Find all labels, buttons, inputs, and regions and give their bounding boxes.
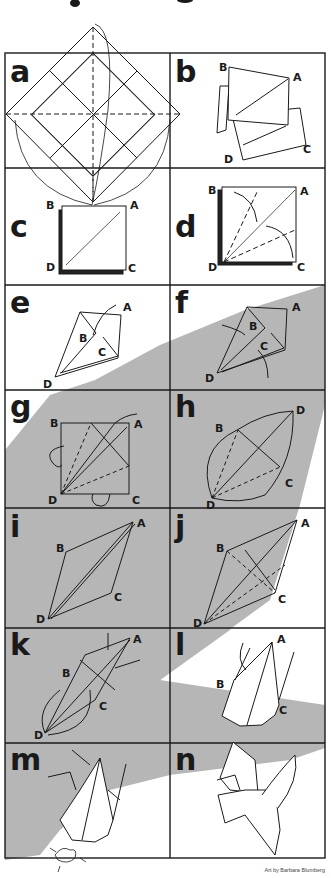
- panel-c-drawing: [59, 170, 126, 274]
- panel-label-e: e: [10, 288, 30, 318]
- vertex-label: B: [56, 543, 64, 554]
- panel-label-c: c: [10, 212, 28, 242]
- vertex-label: C: [279, 705, 287, 716]
- vertex-label: A: [293, 72, 302, 83]
- vertex-label: A: [134, 419, 143, 430]
- vertex-label: D: [34, 730, 43, 741]
- vertex-label: C: [99, 701, 107, 712]
- vertex-label: C: [260, 341, 268, 352]
- panel-label-m: m: [10, 745, 41, 775]
- panel-label-i: i: [10, 512, 20, 542]
- vertex-label: B: [62, 668, 70, 679]
- vertex-label: D: [193, 618, 202, 629]
- vertex-label: D: [46, 262, 55, 273]
- vertex-label: C: [132, 495, 140, 506]
- panel-label-g: g: [10, 392, 31, 422]
- vertex-label: D: [205, 373, 214, 384]
- vertex-label: B: [50, 418, 58, 429]
- panel-d-drawing: [218, 187, 296, 265]
- feathers-puff: [50, 848, 86, 872]
- vertex-label: B: [79, 333, 87, 344]
- vertex-label: B: [219, 62, 227, 73]
- panel-label-b: b: [175, 57, 196, 87]
- vertex-label: B: [216, 679, 224, 690]
- vertex-label: D: [296, 405, 305, 416]
- vertex-label: A: [137, 518, 146, 529]
- vertex-label: C: [114, 592, 122, 603]
- art-credit: Art by Barbara Blumberg: [264, 867, 325, 873]
- vertex-label: A: [301, 518, 310, 529]
- vertex-label: C: [297, 262, 305, 273]
- vertex-label: B: [208, 185, 216, 196]
- origami-crane-diagram: a b c d e f g h i j k l m n B A C D B A …: [0, 0, 331, 878]
- panel-label-a: a: [10, 57, 30, 87]
- panel-label-j: j: [175, 512, 185, 542]
- vertex-label: B: [46, 200, 54, 211]
- vertex-label: B: [215, 423, 223, 434]
- vertex-label: B: [216, 543, 224, 554]
- vertex-label: C: [285, 478, 293, 489]
- panel-label-d: d: [175, 212, 196, 242]
- vertex-label: C: [278, 594, 286, 605]
- vertex-label: D: [208, 262, 217, 273]
- panel-label-h: h: [175, 392, 196, 422]
- panel-e-drawing: [55, 305, 121, 377]
- vertex-label: C: [303, 144, 311, 155]
- diagram-artwork: [0, 0, 331, 878]
- vertex-label: B: [249, 321, 257, 332]
- vertex-label: C: [98, 347, 106, 358]
- vertex-label: D: [43, 379, 52, 390]
- vertex-label: A: [277, 634, 286, 645]
- vertex-label: D: [36, 614, 45, 625]
- vertex-label: D: [206, 500, 215, 511]
- vertex-label: D: [48, 495, 57, 506]
- vertex-label: A: [133, 634, 142, 645]
- vertex-label: A: [300, 186, 309, 197]
- vertex-label: A: [123, 302, 132, 313]
- vertex-label: D: [224, 154, 233, 165]
- vertex-label: C: [128, 263, 136, 274]
- panel-label-l: l: [175, 630, 185, 660]
- panel-label-k: k: [10, 630, 30, 660]
- vertex-label: A: [292, 302, 301, 313]
- panel-label-f: f: [175, 288, 188, 318]
- title-fragment: [70, 0, 193, 7]
- vertex-label: A: [130, 200, 139, 211]
- panel-label-n: n: [175, 745, 196, 775]
